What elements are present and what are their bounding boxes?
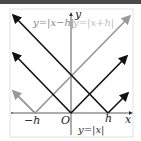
y-axis-label: y xyxy=(75,8,81,21)
x-axis-label: x xyxy=(125,113,131,126)
curve-abs-x-plus-h xyxy=(13,16,130,113)
origin-label: O xyxy=(61,114,70,127)
label-abs-x: y=|x| xyxy=(78,124,104,135)
label-abs-x-minus-h: y=|x−h| xyxy=(33,17,74,28)
tick-neg-h: −h xyxy=(24,114,40,127)
tick-h: h xyxy=(105,112,112,125)
curve-abs-x-minus-h xyxy=(13,15,108,113)
